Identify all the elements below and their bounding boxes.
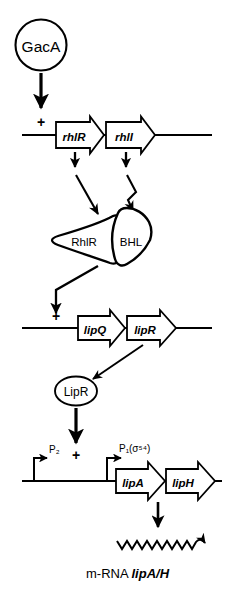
- mrna-label-prefix: m-RNA: [86, 566, 132, 581]
- gene-rhlR-label: rhlR: [63, 131, 87, 143]
- gene-lipQ-label: lipQ: [84, 324, 106, 336]
- pathway-diagram: GacA + rhlR rhlI: [0, 0, 241, 595]
- complex-label-bhl: BHL: [120, 236, 143, 248]
- lipah-activation-plus: +: [72, 447, 80, 463]
- mrna-wave: [117, 540, 205, 549]
- gene-lipR-label: lipR: [134, 324, 156, 336]
- gene-rhlR: rhlR: [56, 117, 104, 154]
- promoter-p2-arrow: [34, 458, 47, 481]
- rhl-activation-plus: +: [37, 114, 45, 130]
- gene-lipQ: lipQ: [78, 310, 125, 346]
- node-rhlr-bhl-complex: RhlR BHL: [52, 208, 151, 265]
- transcript-mrna: m-RNA lipA/H: [86, 540, 205, 581]
- gene-lipR: lipR: [127, 310, 176, 346]
- node-gaca: GacA: [16, 20, 67, 71]
- lipqr-activation-plus: +: [52, 308, 60, 324]
- arrow-complex-to-lipq: [56, 266, 98, 313]
- gene-lipA: lipA: [116, 462, 165, 500]
- operon-lip-structural: + P₂ P₁(σ⁵⁴) lipA lipH: [22, 443, 222, 500]
- gene-rhlI: rhlI: [106, 117, 155, 154]
- complex-label-rhlr: RhlR: [71, 236, 97, 248]
- gaca-label: GacA: [22, 38, 61, 55]
- promoter-p2: P₂: [34, 444, 60, 481]
- gene-rhlI-label: rhlI: [115, 131, 134, 143]
- pathway-svg: GacA + rhlR rhlI: [0, 0, 241, 595]
- operon-rhl: + rhlR rhlI: [22, 114, 212, 154]
- promoter-p2-label: P₂: [49, 444, 60, 455]
- gene-lipH-label: lipH: [172, 477, 194, 489]
- mrna-label: m-RNA lipA/H: [86, 566, 170, 581]
- mrna-label-gene: lipA/H: [132, 566, 170, 581]
- lipr-label: LipR: [64, 385, 89, 399]
- promoter-p1-label: P₁(σ⁵⁴): [119, 443, 150, 454]
- arrow-rhlR-to-complex: [76, 175, 98, 214]
- gene-lipH: lipH: [166, 462, 215, 500]
- node-lipr-protein: LipR: [55, 377, 97, 406]
- arrow-lipR-to-protein: [93, 345, 143, 379]
- operon-lip-regulatory: + lipQ lipR: [22, 308, 212, 346]
- arrow-rhlI-to-complex: [127, 175, 136, 211]
- gene-lipA-label: lipA: [122, 477, 144, 489]
